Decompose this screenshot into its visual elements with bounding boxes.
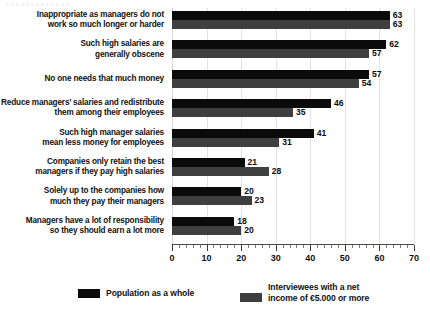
tick-minor (200, 245, 201, 248)
x-axis-line (172, 244, 414, 245)
bar-series-1[interactable] (172, 49, 369, 58)
chart-legend: Population as a whole Interviewees with … (0, 282, 430, 319)
bar-chart: Inappropriate as managers do not work so… (0, 8, 430, 270)
tick-minor (407, 245, 408, 248)
category-labels-column: Inappropriate as managers do not work so… (0, 8, 168, 244)
x-tick-label: 10 (202, 253, 212, 264)
tick-major-50 (345, 245, 346, 251)
gridline-70 (414, 8, 415, 244)
x-tick-label: 70 (409, 253, 419, 264)
tick-minor (393, 245, 394, 248)
tick-minor (400, 245, 401, 248)
bar-value-label: 20 (244, 226, 254, 235)
bar-group: 6257 (172, 40, 414, 59)
tick-minor (359, 245, 360, 248)
tick-major-40 (310, 245, 311, 251)
bar-series-1[interactable] (172, 196, 252, 205)
tick-minor (296, 245, 297, 248)
x-tick-label: 60 (374, 253, 384, 264)
bar-series-0[interactable] (172, 99, 331, 108)
bar-value-label: 57 (372, 49, 382, 58)
bar-group: 2023 (172, 187, 414, 206)
bar-series-1[interactable] (172, 138, 279, 147)
bar-value-label: 54 (362, 79, 372, 88)
tick-minor (352, 245, 353, 248)
bar-series-0[interactable] (172, 187, 241, 196)
tick-minor (269, 245, 270, 248)
tick-minor (262, 245, 263, 248)
bar-value-label: 20 (244, 187, 254, 196)
tick-major-70 (414, 245, 415, 251)
category-label: Companies only retain the best managers … (35, 157, 164, 177)
legend-swatch-high-income (240, 293, 262, 302)
tick-minor (324, 245, 325, 248)
x-tick-label: 40 (305, 253, 315, 264)
bar-value-label: 35 (296, 108, 306, 117)
bar-value-label: 46 (334, 99, 344, 108)
tick-minor (255, 245, 256, 248)
bar-series-0[interactable] (172, 158, 245, 167)
tick-major-60 (379, 245, 380, 251)
tick-minor (290, 245, 291, 248)
bar-value-label: 63 (393, 20, 403, 29)
tick-minor (179, 245, 180, 248)
bar-series-0[interactable] (172, 40, 386, 49)
category-label: Reduce managers’ salaries and redistribu… (1, 98, 164, 118)
bar-series-1[interactable] (172, 226, 241, 235)
tick-minor (317, 245, 318, 248)
cropped-header-artifact: a a a a a a a a a a a a a (0, 0, 430, 8)
category-label: Such high salaries are generally obscene (80, 39, 164, 59)
tick-minor (248, 245, 249, 248)
legend-swatch-population (78, 289, 100, 298)
x-tick-label: 50 (340, 253, 350, 264)
legend-item-population[interactable]: Population as a whole (78, 288, 194, 299)
bar-series-1[interactable] (172, 20, 390, 29)
category-label: Such high manager salaries mean less mon… (42, 128, 164, 148)
tick-minor (234, 245, 235, 248)
bar-series-1[interactable] (172, 108, 293, 117)
bar-value-label: 23 (255, 196, 265, 205)
x-tick-label: 30 (271, 253, 281, 264)
tick-minor (386, 245, 387, 248)
tick-minor (227, 245, 228, 248)
bar-group: 2128 (172, 158, 414, 177)
tick-minor (283, 245, 284, 248)
bar-group: 4131 (172, 129, 414, 148)
bar-group: 4635 (172, 99, 414, 118)
bar-value-label: 28 (272, 167, 282, 176)
tick-major-10 (207, 245, 208, 251)
bar-value-label: 41 (317, 129, 327, 138)
bar-value-label: 57 (372, 70, 382, 79)
bar-value-label: 62 (389, 40, 399, 49)
tick-major-30 (276, 245, 277, 251)
bar-series-0[interactable] (172, 217, 234, 226)
category-label: Solely up to the companies how much they… (44, 186, 164, 206)
legend-label-high-income: Interviewees with a net income of €5.000… (268, 282, 369, 304)
tick-minor (373, 245, 374, 248)
bar-value-label: 31 (282, 138, 292, 147)
tick-major-0 (172, 245, 173, 251)
tick-minor (186, 245, 187, 248)
bar-value-label: 21 (248, 158, 258, 167)
tick-minor (220, 245, 221, 248)
tick-minor (331, 245, 332, 248)
bar-series-1[interactable] (172, 79, 359, 88)
category-label: No one needs that much money (44, 74, 164, 84)
bar-group: 6363 (172, 11, 414, 30)
tick-minor (338, 245, 339, 248)
x-tick-label: 0 (169, 253, 174, 264)
bar-series-0[interactable] (172, 70, 369, 79)
tick-major-20 (241, 245, 242, 251)
bar-series-0[interactable] (172, 129, 314, 138)
tick-minor (213, 245, 214, 248)
bar-series-0[interactable] (172, 11, 390, 20)
category-label: Managers have a lot of responsibility so… (26, 216, 164, 236)
plot-area: 63636257575446354131212820231820 (172, 8, 414, 244)
legend-item-high-income[interactable]: Interviewees with a net income of €5.000… (240, 282, 369, 304)
tick-minor (193, 245, 194, 248)
bar-series-1[interactable] (172, 167, 269, 176)
tick-minor (366, 245, 367, 248)
category-label: Inappropriate as managers do not work so… (37, 10, 164, 30)
x-tick-label: 20 (236, 253, 246, 264)
tick-minor (303, 245, 304, 248)
